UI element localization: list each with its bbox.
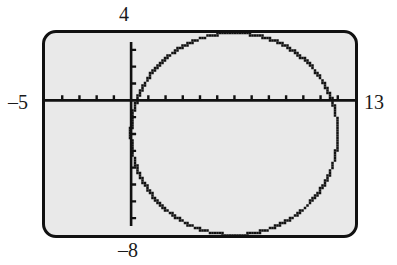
plot-area (45, 33, 355, 235)
calculator-screen-frame (42, 30, 358, 238)
axis-label-xmin: –5 (8, 92, 28, 112)
plot-canvas (45, 33, 355, 235)
axis-label-ymax: 4 (119, 4, 129, 24)
axis-label-xmax: 13 (364, 92, 384, 112)
circle-curve (129, 33, 339, 235)
graphing-calculator-figure: 4 –8 –5 13 (0, 0, 397, 265)
axis-label-ymin: –8 (118, 240, 138, 260)
